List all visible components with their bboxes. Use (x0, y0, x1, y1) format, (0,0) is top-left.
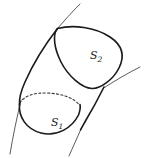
lower-cross-section-hidden-arc-icon (20, 93, 80, 105)
background-curve-lower-right-icon (69, 128, 82, 156)
label-s2-subscript: 2 (98, 55, 103, 64)
label-s2: S2 (90, 50, 102, 64)
background-curve-upper-icon (58, 4, 81, 29)
upper-cross-section-ellipse-icon (54, 27, 122, 89)
label-s1: S1 (51, 117, 63, 131)
label-s1-subscript: 1 (59, 122, 64, 131)
tube-cross-section-diagram (0, 0, 144, 158)
tube-right-edge-icon (81, 87, 105, 130)
label-s1-base: S (51, 116, 59, 129)
lower-cross-section-arc-icon (19, 104, 80, 134)
figure-container: S2 S1 (0, 0, 144, 158)
label-s2-base: S (90, 49, 98, 62)
background-curve-upper-right-icon (105, 67, 141, 88)
